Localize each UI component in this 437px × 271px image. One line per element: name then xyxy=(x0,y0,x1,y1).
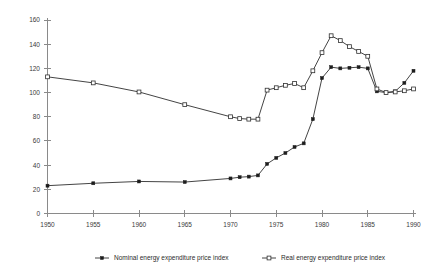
data-point-marker xyxy=(329,34,333,38)
data-point-marker xyxy=(137,90,141,94)
data-point-marker xyxy=(183,103,187,107)
data-point-marker xyxy=(357,66,360,69)
x-tick-label: 1970 xyxy=(223,221,238,228)
data-point-marker xyxy=(403,81,406,84)
data-point-marker xyxy=(412,69,415,72)
legend-entry-real: Real energy expenditure price index xyxy=(262,254,386,262)
x-tick-label: 1960 xyxy=(132,221,147,228)
data-point-marker xyxy=(311,69,315,73)
x-tick-label: 1990 xyxy=(406,221,421,228)
data-point-marker xyxy=(46,184,49,187)
y-tick-label: 20 xyxy=(33,186,41,193)
data-point-marker xyxy=(384,91,388,95)
y-tick-label: 0 xyxy=(36,210,40,217)
energy-price-index-line-chart: 020406080100120140160 195019551960196519… xyxy=(0,0,437,271)
data-point-marker xyxy=(247,175,250,178)
y-tick-label: 40 xyxy=(33,162,41,169)
series-real xyxy=(46,34,416,121)
x-axis-ticks: 195019551960196519701975198019851990 xyxy=(40,210,421,228)
data-point-marker xyxy=(402,89,406,93)
data-point-marker xyxy=(375,87,379,91)
y-tick-label: 120 xyxy=(29,65,40,72)
data-point-marker xyxy=(266,162,269,165)
series-polyline xyxy=(48,36,414,119)
y-tick-label: 100 xyxy=(29,89,40,96)
y-tick-label: 80 xyxy=(33,113,41,120)
data-point-marker xyxy=(302,86,306,90)
data-point-marker xyxy=(348,45,352,49)
data-point-marker xyxy=(238,117,242,121)
data-point-marker xyxy=(46,75,50,79)
data-point-marker xyxy=(348,66,351,69)
data-point-marker xyxy=(229,177,232,180)
x-tick-label: 1955 xyxy=(86,221,101,228)
data-point-marker xyxy=(256,117,260,121)
data-point-marker xyxy=(256,174,259,177)
x-tick-label: 1950 xyxy=(40,221,55,228)
data-point-marker xyxy=(238,176,241,179)
data-point-marker xyxy=(330,66,333,69)
data-point-marker xyxy=(247,117,251,121)
data-point-marker xyxy=(274,86,278,90)
x-tick-label: 1975 xyxy=(269,221,284,228)
legend-label: Real energy expenditure price index xyxy=(281,254,386,262)
y-tick-label: 140 xyxy=(29,41,40,48)
chart-legend: Nominal energy expenditure price indexRe… xyxy=(95,254,386,262)
data-point-marker xyxy=(339,67,342,70)
x-tick-label: 1965 xyxy=(178,221,193,228)
data-point-marker xyxy=(293,82,297,86)
x-tick-label: 1985 xyxy=(361,221,376,228)
legend-label: Nominal energy expenditure price index xyxy=(114,254,229,262)
x-tick-label: 1980 xyxy=(315,221,330,228)
data-series-group xyxy=(46,34,416,187)
data-point-marker xyxy=(311,118,314,121)
series-nominal xyxy=(46,66,415,188)
data-point-marker xyxy=(357,50,361,54)
data-point-marker xyxy=(293,145,296,148)
data-point-marker xyxy=(138,180,141,183)
y-tick-label: 160 xyxy=(29,16,40,23)
data-point-marker xyxy=(366,67,369,70)
data-point-marker xyxy=(229,115,233,119)
legend-marker xyxy=(267,256,271,260)
data-point-marker xyxy=(302,142,305,145)
data-point-marker xyxy=(284,152,287,155)
data-point-marker xyxy=(393,90,397,94)
data-point-marker xyxy=(183,181,186,184)
data-point-marker xyxy=(284,83,288,87)
y-tick-label: 60 xyxy=(33,137,41,144)
data-point-marker xyxy=(412,87,416,91)
legend-marker xyxy=(101,257,104,260)
data-point-marker xyxy=(338,39,342,43)
data-point-marker xyxy=(275,156,278,159)
data-point-marker xyxy=(366,54,370,58)
data-point-marker xyxy=(321,77,324,80)
data-point-marker xyxy=(92,182,95,185)
data-point-marker xyxy=(91,81,95,85)
data-point-marker xyxy=(265,88,269,92)
legend-entry-nominal: Nominal energy expenditure price index xyxy=(95,254,229,262)
data-point-marker xyxy=(320,51,324,55)
chart-container: 020406080100120140160 195019551960196519… xyxy=(0,0,437,271)
